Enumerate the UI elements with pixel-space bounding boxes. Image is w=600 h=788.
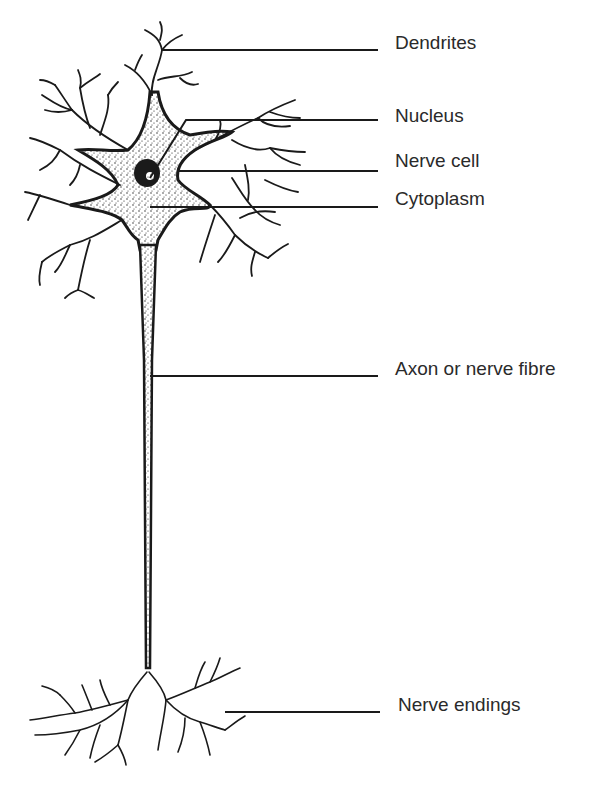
nucleus-shape [134,159,160,187]
label-dendrites: Dendrites [395,33,476,52]
neuron-diagram [0,0,600,788]
nerve-endings-shape [30,658,245,765]
axon-shape [140,245,156,668]
label-axon: Axon or nerve fibre [395,359,556,378]
label-cytoplasm: Cytoplasm [395,189,485,208]
label-nerve-endings: Nerve endings [398,695,521,714]
label-nucleus: Nucleus [395,106,464,125]
label-nerve-cell: Nerve cell [395,151,479,170]
